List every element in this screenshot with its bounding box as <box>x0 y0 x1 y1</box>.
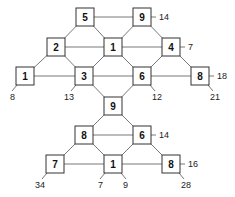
annotation-tick <box>100 173 105 179</box>
node-n9a: 9 <box>133 8 151 26</box>
node-n8b: 8 <box>75 126 93 144</box>
node-n8c: 8 <box>162 155 180 173</box>
annotation-label: 21 <box>210 92 220 102</box>
annotation-label: 7 <box>98 180 103 190</box>
node-label: 5 <box>82 12 88 23</box>
node-n2: 2 <box>47 38 65 56</box>
node-n6b: 6 <box>133 126 151 144</box>
annotation-label: 12 <box>152 92 162 102</box>
node-label: 1 <box>110 159 116 170</box>
node-n1a: 1 <box>104 38 122 56</box>
node-n7: 7 <box>46 155 64 173</box>
node-n9b: 9 <box>104 97 122 115</box>
annotation-tick <box>71 85 76 91</box>
annotation-tick <box>121 173 126 179</box>
node-label: 2 <box>53 42 59 53</box>
node-n1b: 1 <box>16 67 34 85</box>
annotation-tick <box>42 173 47 179</box>
node-label: 4 <box>168 42 174 53</box>
node-label: 8 <box>197 71 203 82</box>
annotation-label: 8 <box>10 92 15 102</box>
node-label: 1 <box>110 42 116 53</box>
annotation-label: 18 <box>217 71 227 81</box>
nodes-layer: 592141368986718 <box>16 8 209 173</box>
annotation-tick <box>150 85 155 91</box>
annotation-label: 14 <box>159 12 169 22</box>
node-n4: 4 <box>162 38 180 56</box>
node-n5: 5 <box>76 8 94 26</box>
annotation-label: 9 <box>123 180 128 190</box>
node-label: 8 <box>168 159 174 170</box>
node-n3: 3 <box>75 67 93 85</box>
node-label: 9 <box>139 12 145 23</box>
annotation-tick <box>179 173 184 179</box>
node-n6a: 6 <box>133 67 151 85</box>
annotation-label: 13 <box>64 92 74 102</box>
node-label: 9 <box>110 101 116 112</box>
annotation-tick <box>12 85 17 91</box>
annotation-label: 7 <box>188 42 193 52</box>
node-label: 7 <box>52 159 58 170</box>
annotation-label: 14 <box>159 130 169 140</box>
annotation-label: 28 <box>181 180 191 190</box>
node-label: 3 <box>81 71 87 82</box>
node-label: 8 <box>81 130 87 141</box>
node-n8a: 8 <box>191 67 209 85</box>
node-label: 6 <box>139 130 145 141</box>
annotation-tick <box>208 85 213 91</box>
node-label: 1 <box>22 71 28 82</box>
annotation-label: 34 <box>35 180 45 190</box>
annotation-label: 16 <box>188 159 198 169</box>
graph-diagram: 1471821813121416283479 592141368986718 <box>0 0 235 197</box>
node-n1c: 1 <box>104 155 122 173</box>
node-label: 6 <box>139 71 145 82</box>
